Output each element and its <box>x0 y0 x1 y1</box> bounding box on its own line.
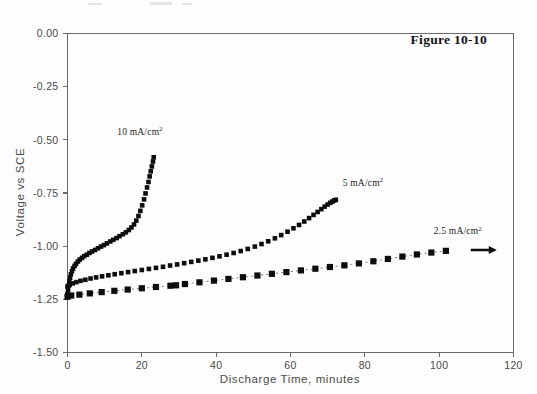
data-point-marker <box>428 249 434 255</box>
data-point-marker <box>259 242 264 247</box>
data-point-marker <box>399 253 405 259</box>
label-10-ma: 10 mA/cm2 <box>117 125 162 136</box>
data-point-marker <box>231 251 236 256</box>
data-point-marker <box>182 281 188 287</box>
data-point-marker <box>327 264 333 270</box>
x-tick-label: 60 <box>284 359 296 371</box>
data-point-marker <box>414 251 420 257</box>
y-tick-label: -0.75 <box>33 187 58 199</box>
y-axis-ticks: 0.00-0.25-0.50-0.75-1.00-1.25-1.50 <box>33 27 67 358</box>
data-point-marker <box>151 155 156 160</box>
y-axis-title: Voltage vs SCE <box>14 148 26 236</box>
data-point-marker <box>334 198 339 203</box>
data-point-marker <box>138 209 143 214</box>
data-point-marker <box>148 169 153 174</box>
data-point-marker <box>147 174 152 179</box>
continues-arrow <box>471 246 497 254</box>
data-point-marker <box>217 254 222 259</box>
data-point-marker <box>106 273 111 278</box>
data-point-marker <box>147 267 152 272</box>
data-point-marker <box>254 272 260 278</box>
data-point-marker <box>173 282 179 288</box>
data-point-marker <box>100 274 105 279</box>
data-point-marker <box>311 213 316 218</box>
data-point-marker <box>76 292 82 298</box>
data-point-marker <box>140 203 145 208</box>
data-point-marker <box>161 265 166 270</box>
data-point-marker <box>211 278 217 284</box>
x-tick-label: 40 <box>210 359 222 371</box>
data-point-marker <box>297 223 302 228</box>
data-point-marker <box>443 248 449 254</box>
x-axis-title: Discharge Time, minutes <box>220 373 360 385</box>
data-point-marker <box>225 276 231 282</box>
data-point-marker <box>175 262 180 267</box>
x-axis-ticks: 020406080100120 <box>64 353 522 371</box>
data-point-marker <box>285 229 290 234</box>
data-point-marker <box>182 261 187 266</box>
y-tick-label: -1.00 <box>33 240 58 252</box>
data-point-marker <box>283 269 289 275</box>
figure-title: Figure 10-10 <box>411 32 487 47</box>
data-point-marker <box>253 244 258 249</box>
data-point-marker <box>150 164 155 169</box>
data-point-marker <box>307 216 312 221</box>
data-point-marker <box>341 262 347 268</box>
data-point-marker <box>356 260 362 266</box>
data-series-group <box>64 155 449 300</box>
data-point-marker <box>312 266 318 272</box>
y-tick-label: -0.25 <box>33 80 58 92</box>
x-tick-label: 100 <box>430 359 448 371</box>
data-point-marker <box>273 236 278 241</box>
data-point-marker <box>238 249 243 254</box>
data-point-marker <box>240 274 246 280</box>
data-point-marker <box>136 214 141 219</box>
axes <box>68 33 515 353</box>
x-tick-label: 20 <box>136 359 148 371</box>
data-point-marker <box>83 277 88 282</box>
data-point-marker <box>143 191 148 196</box>
data-point-marker <box>139 285 145 291</box>
chart-canvas: 0.00-0.25-0.50-0.75-1.00-1.25-1.50 02040… <box>0 0 537 394</box>
series-annotations: 10 mA/cm25 mA/cm22.5 mA/cm2 <box>117 125 481 236</box>
data-point-marker <box>302 219 307 224</box>
data-point-marker <box>245 247 250 252</box>
data-point-marker <box>99 289 105 295</box>
data-point-marker <box>370 258 376 264</box>
data-point-marker <box>125 286 131 292</box>
data-point-marker <box>94 275 99 280</box>
y-tick-label: 0.00 <box>37 27 59 39</box>
data-point-marker <box>154 266 159 271</box>
data-point-marker <box>153 284 159 290</box>
data-point-marker <box>210 256 215 261</box>
x-tick-label: 120 <box>504 359 522 371</box>
data-point-marker <box>151 159 156 164</box>
data-point-marker <box>168 263 173 268</box>
figure-container: 0.00-0.25-0.50-0.75-1.00-1.25-1.50 02040… <box>0 0 537 394</box>
data-point-marker <box>132 269 137 274</box>
data-point-marker <box>145 185 150 190</box>
data-point-marker <box>291 226 296 231</box>
y-tick-label: -1.50 <box>33 346 58 358</box>
x-tick-label: 0 <box>64 359 70 371</box>
data-point-marker <box>196 258 201 263</box>
data-point-marker <box>189 260 194 265</box>
data-point-marker <box>279 233 284 238</box>
label-5-ma: 5 mA/cm2 <box>343 176 383 187</box>
data-point-marker <box>146 180 151 185</box>
label-2-5-ma: 2.5 mA/cm2 <box>434 225 482 236</box>
data-point-marker <box>88 276 93 281</box>
data-point-marker <box>385 256 391 262</box>
data-point-marker <box>167 283 173 289</box>
data-point-marker <box>87 290 93 296</box>
data-point-marker <box>266 239 271 244</box>
x-tick-label: 80 <box>359 359 371 371</box>
data-point-marker <box>196 279 202 285</box>
data-point-marker <box>74 280 79 285</box>
data-point-marker <box>111 288 117 294</box>
data-point-marker <box>78 279 83 284</box>
data-point-marker <box>203 257 208 262</box>
data-point-marker <box>112 272 117 277</box>
data-point-marker <box>119 271 124 276</box>
scan-artifacts <box>88 2 192 5</box>
